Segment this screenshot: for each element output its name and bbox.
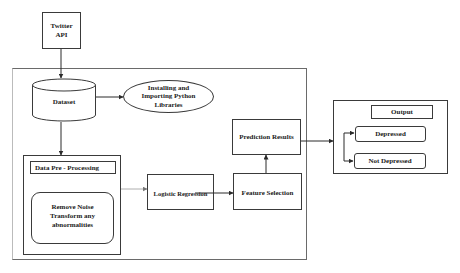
connectors: [0, 0, 460, 273]
